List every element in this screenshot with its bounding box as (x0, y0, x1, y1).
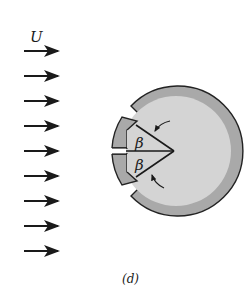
beta-lower-label: β (134, 156, 144, 174)
flow-velocity-label: U (30, 28, 44, 46)
figure-caption: (d) (122, 272, 139, 286)
diagram-canvas: U β β (d) (0, 0, 251, 293)
cylinder (110, 86, 243, 216)
beta-upper-label: β (134, 134, 144, 152)
flow-arrows (24, 51, 58, 251)
